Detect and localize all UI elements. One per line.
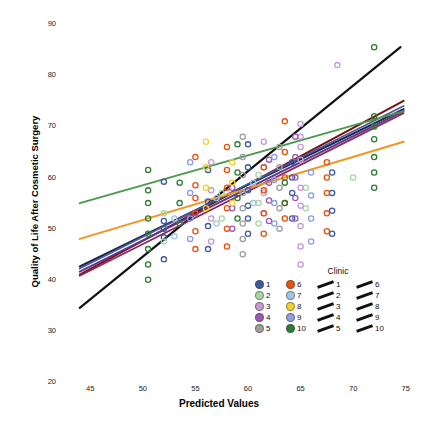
scatter-point: [330, 231, 335, 236]
scatter-point: [261, 211, 266, 216]
scatter-point: [261, 231, 266, 236]
scatter-point: [372, 155, 377, 160]
legend-item-label: 6: [297, 280, 310, 289]
legend-line-swatch: [317, 324, 334, 333]
scatter-point: [230, 201, 235, 206]
scatter-point: [266, 218, 271, 223]
legend-marker-swatch: [286, 313, 295, 322]
scatter-point: [372, 170, 377, 175]
scatter-point: [235, 216, 240, 221]
legend-item-marker-1[interactable]: 1: [255, 279, 279, 290]
scatter-point: [293, 134, 298, 139]
legend-marker-swatch: [255, 291, 264, 300]
legend-item-label: 10: [297, 324, 310, 333]
legend-item-line-9[interactable]: 9: [356, 312, 388, 323]
scatter-point: [290, 190, 295, 195]
legend-line-swatch: [356, 324, 373, 333]
legend-item-line-2[interactable]: 2: [317, 290, 349, 301]
legend-item-label: 3: [266, 302, 279, 311]
scatter-point: [277, 206, 282, 211]
scatter-point: [240, 252, 245, 257]
scatter-point: [224, 226, 229, 231]
scatter-point: [256, 201, 261, 206]
scatter-point: [161, 218, 166, 223]
scatter-point: [324, 175, 329, 180]
scatter-point: [303, 185, 308, 190]
scatter-point: [188, 236, 193, 241]
legend-line-swatch: [317, 291, 334, 300]
legend-item-marker-9[interactable]: 9: [286, 312, 310, 323]
scatter-point: [193, 229, 198, 234]
legend-item-marker-4[interactable]: 4: [255, 312, 279, 323]
legend-item-label: 8: [375, 302, 388, 311]
legend-item-line-3[interactable]: 3: [317, 301, 349, 312]
scatter-point: [266, 157, 271, 162]
scatter-point: [277, 185, 282, 190]
legend-item-label: 6: [375, 280, 388, 289]
scatter-point: [203, 139, 208, 144]
legend-item-line-7[interactable]: 7: [356, 290, 388, 301]
legend-item-marker-5[interactable]: 5: [255, 323, 279, 334]
scatter-point: [272, 155, 277, 160]
scatter-point: [298, 121, 303, 126]
legend-item-marker-6[interactable]: 6: [286, 279, 310, 290]
scatter-point: [177, 180, 182, 185]
scatter-point: [219, 216, 224, 221]
scatter-point: [308, 239, 313, 244]
scatter-point: [240, 236, 245, 241]
legend-item-line-4[interactable]: 4: [317, 312, 349, 323]
legend-item-label: 9: [375, 313, 388, 322]
legend-column-gap: [279, 279, 286, 334]
scatter-point: [277, 226, 282, 231]
scatter-point: [245, 216, 250, 221]
scatter-point: [308, 193, 313, 198]
legend-item-marker-7[interactable]: 7: [286, 290, 310, 301]
scatter-point: [324, 190, 329, 195]
scatter-point: [203, 185, 208, 190]
scatter-point: [240, 134, 245, 139]
scatter-point: [298, 203, 303, 208]
scatter-point: [224, 244, 229, 249]
scatter-point: [235, 142, 240, 147]
legend-item-line-5[interactable]: 5: [317, 323, 349, 334]
legend: Clinic 1234567891012345678910: [255, 266, 435, 334]
legend-marker-swatch: [286, 280, 295, 289]
scatter-point: [209, 216, 214, 221]
scatter-point: [282, 180, 287, 185]
scatter-point: [282, 201, 287, 206]
scatter-point: [146, 277, 151, 282]
x-axis-title: Predicted Values: [0, 398, 438, 409]
legend-item-line-10[interactable]: 10: [356, 323, 388, 334]
legend-marker-swatch: [255, 302, 264, 311]
legend-item-line-6[interactable]: 6: [356, 279, 388, 290]
legend-line-swatch: [356, 313, 373, 322]
scatter-point: [372, 185, 377, 190]
scatter-point: [209, 239, 214, 244]
legend-line-swatch: [356, 291, 373, 300]
legend-column-gap: [310, 279, 317, 334]
scatter-point: [161, 257, 166, 262]
scatter-point: [224, 144, 229, 149]
scatter-point: [205, 224, 210, 229]
legend-item-marker-8[interactable]: 8: [286, 301, 310, 312]
legend-marker-swatch: [255, 324, 264, 333]
legend-entries: 1234567891012345678910: [255, 279, 435, 334]
legend-item-marker-3[interactable]: 3: [255, 301, 279, 312]
scatter-point: [172, 234, 177, 239]
legend-item-line-8[interactable]: 8: [356, 301, 388, 312]
scatter-point: [324, 229, 329, 234]
scatter-point: [224, 167, 229, 172]
legend-line-swatch: [317, 302, 334, 311]
legend-item-marker-10[interactable]: 10: [286, 323, 310, 334]
legend-title: Clinic: [273, 266, 403, 276]
legend-line-swatch: [356, 280, 373, 289]
legend-item-marker-2[interactable]: 2: [255, 290, 279, 301]
legend-item-label: 5: [336, 324, 349, 333]
scatter-point: [272, 221, 277, 226]
legend-item-line-1[interactable]: 1: [317, 279, 349, 290]
scatter-point: [230, 185, 235, 190]
legend-marker-swatch: [286, 291, 295, 300]
legend-marker-swatch: [255, 313, 264, 322]
scatter-point: [230, 206, 235, 211]
legend-item-label: 7: [297, 291, 310, 300]
